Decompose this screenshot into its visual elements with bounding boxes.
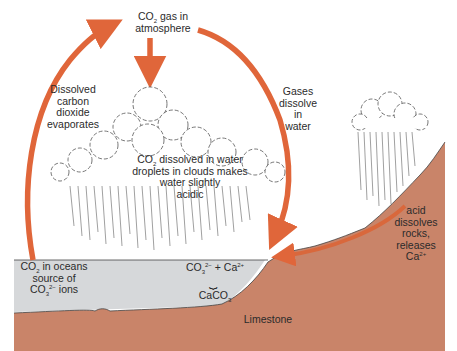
superscript: 2+ <box>419 251 426 257</box>
label-gases-dissolve: Gases dissolve in water <box>268 86 328 132</box>
text: ions <box>56 283 78 295</box>
text: CO <box>30 283 46 295</box>
subscript: 3 <box>46 291 49 297</box>
superscript: 2− <box>205 262 212 268</box>
text: atmosphere <box>135 22 190 34</box>
superscript: 2− <box>49 284 56 290</box>
text: in <box>294 108 302 120</box>
brace-icon: ⏟ <box>198 274 228 288</box>
subscript: 3 <box>228 297 231 303</box>
superscript: 2+ <box>237 262 244 268</box>
label-cloud-acidic: CO2 dissolved in water droplets in cloud… <box>95 154 285 200</box>
text: Dissolved <box>50 83 96 95</box>
text: + Ca <box>212 261 237 273</box>
text: source of <box>32 272 75 284</box>
text: water slightly <box>160 176 221 188</box>
text: releases <box>396 239 436 251</box>
text: acidic <box>177 188 204 200</box>
label-co2-oceans: CO2 in oceans source of CO32− ions <box>14 261 94 296</box>
text: Ca <box>406 250 419 262</box>
text: CO <box>186 261 202 273</box>
label-dissolved-co2-evaporates: Dissolved carbon dioxide evaporates <box>38 84 108 130</box>
label-co2-atmosphere: CO2 gas in atmosphere <box>108 11 218 34</box>
label-limestone: Limestone <box>228 314 308 326</box>
text: CO <box>138 10 154 22</box>
text: rocks, <box>402 227 430 239</box>
text: droplets in clouds makes <box>132 165 248 177</box>
text: CO <box>137 153 153 165</box>
text: gas in <box>157 10 188 22</box>
gas-dissolve-arrow <box>198 30 289 235</box>
text: in oceans <box>40 260 88 272</box>
text: dioxide <box>56 106 89 118</box>
text: dissolved in water <box>156 153 242 165</box>
label-carbonate-calcium-ions: CO32− + Ca2+ <box>165 262 265 274</box>
text: acid <box>406 204 425 216</box>
text: evaporates <box>47 118 99 130</box>
text: CaCO <box>199 289 228 301</box>
text: CO <box>21 260 37 272</box>
text: dissolves <box>394 216 437 228</box>
text: dissolve <box>279 97 317 109</box>
small-cloud <box>352 92 428 130</box>
label-caco3: CaCO3 <box>180 290 250 302</box>
text: carbon <box>57 95 89 107</box>
text: Gases <box>283 85 313 97</box>
text: water <box>285 120 311 132</box>
label-acid-dissolves-rocks: acid dissolves rocks, releases Ca2+ <box>386 205 446 263</box>
